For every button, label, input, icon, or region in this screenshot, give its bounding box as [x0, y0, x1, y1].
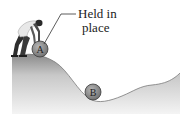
hill-terrain — [12, 54, 180, 114]
held-in-place-label-line1: Held in — [78, 6, 117, 21]
leader-line — [44, 14, 76, 44]
ball-a-label: A — [36, 44, 44, 55]
ball-b: B — [85, 84, 101, 100]
diagram-canvas: A B Held in place — [0, 0, 189, 114]
ball-a: A — [32, 41, 48, 57]
ball-b-label: B — [90, 87, 97, 98]
held-in-place-label-line2: place — [82, 20, 110, 35]
